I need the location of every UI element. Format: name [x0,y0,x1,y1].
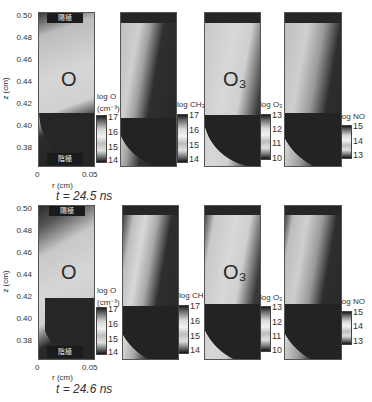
colorbar-tick: 14 [190,345,200,355]
colorbar-tick: 14 [353,321,363,331]
x-axis-title: r (cm) [52,373,73,382]
colorbar-tick: 10 [272,345,282,355]
panel-o3-t1: O₃ [204,12,261,167]
y-axis-title: z (cm) [1,77,10,99]
colorbar-no [341,125,352,159]
colorbar-tick: 14 [108,155,118,165]
colorbar-tick: 15 [353,121,363,131]
panel-o-t1: 陽極 陰極 O [38,12,95,167]
panel-ch3-t1 [120,12,177,167]
panel-o3-t2: O₃ [204,205,261,360]
colorbar-o [96,115,107,163]
colorbar-tick: 15 [189,140,199,150]
colorbar-title: log O [97,92,116,101]
colorbar-tick: 16 [189,125,199,135]
colorbar-tick: 15 [190,331,200,341]
colorbar-tick: 12 [272,317,282,327]
x-tick: 0 [35,170,39,179]
colorbar-tick: 17 [190,301,200,311]
colorbar-tick: 11 [272,138,281,148]
y-tick: 0.38 [4,143,32,152]
x-tick: 0 [35,363,39,372]
y-tick: 0.48 [4,226,32,235]
colorbar-title: log O₃ [260,100,282,109]
colorbar-tick: 13 [272,302,282,312]
colorbar-title: log NO [340,112,365,121]
colorbar-title: log CH₃ [177,100,205,109]
colorbar-tick: 17 [108,112,118,122]
cathode-label: 陰極 [47,153,83,165]
time-label: t = 24.6 ns [56,382,112,396]
colorbar-o3 [260,114,271,160]
colorbar-tick: 14 [108,347,118,357]
y-tick: 0.42 [4,292,32,301]
colorbar-tick: 16 [108,319,118,329]
colorbar-tick: 14 [353,136,363,146]
species-label: O₃ [223,261,247,284]
colorbar-tick: 15 [108,334,118,344]
y-tick: 0.50 [4,204,32,213]
anode-label: 陽極 [49,205,85,216]
colorbar-tick: 14 [189,154,199,164]
species-label: O₃ [223,68,247,91]
y-tick: 0.42 [4,99,32,108]
panel-ch3-t2 [122,205,179,360]
x-tick: 0.05 [82,170,98,179]
colorbar-no [341,311,352,345]
colorbar-o3 [260,306,271,352]
colorbar-title: log O₃ [260,293,282,302]
colorbar-tick: 13 [272,110,282,120]
y-tick: 0.50 [4,11,32,20]
colorbar-tick: 12 [272,124,282,134]
anode-label: 陽極 [47,12,83,23]
species-label: O [61,68,77,91]
colorbar-ch3 [178,305,189,354]
colorbar-tick: 17 [189,110,199,120]
colorbar-tick: 16 [108,127,118,137]
y-tick: 0.40 [4,121,32,130]
y-tick: 0.46 [4,55,32,64]
colorbar-tick: 15 [108,142,118,152]
panel-no-t1 [284,12,342,167]
y-tick: 0.38 [4,336,32,345]
y-axis-title: z (cm) [1,270,10,292]
colorbar-ch3 [177,114,188,163]
panel-o-t2: 陽極 陰極 O [38,205,95,360]
y-tick: 0.40 [4,314,32,323]
colorbar-tick: 17 [108,304,118,314]
cathode-label: 陰極 [47,346,83,358]
time-label: t = 24.5 ns [56,189,112,203]
x-tick: 0.05 [82,363,98,372]
colorbar-title: log O [97,286,116,295]
colorbar-title: log NO [340,297,365,306]
colorbar-o [96,307,107,355]
colorbar-tick: 15 [353,307,363,317]
colorbar-tick: 11 [272,331,281,341]
y-tick: 0.46 [4,248,32,257]
colorbar-tick: 10 [272,153,282,163]
colorbar-tick: 13 [353,336,363,346]
colorbar-tick: 16 [190,316,200,326]
species-label: O [61,261,77,284]
colorbar-tick: 13 [353,150,363,160]
colorbar-title: log CH₃ [179,291,207,300]
panel-no-t2 [284,205,342,360]
y-tick: 0.48 [4,33,32,42]
